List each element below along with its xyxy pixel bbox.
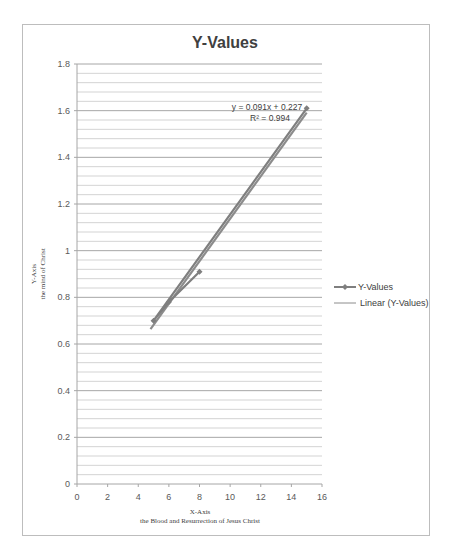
series-line <box>154 108 307 320</box>
y-tick-label: 1.2 <box>57 199 70 209</box>
x-tick-label: 2 <box>105 492 110 502</box>
equation-label: y = 0.091x + 0.227 <box>232 102 303 112</box>
x-tick-label: 12 <box>256 492 266 502</box>
y-tick-label: 0.8 <box>57 292 70 302</box>
x-axis-subtitle: the Blood and Resurrection of Jesus Chri… <box>140 517 260 525</box>
y-axis-title: Y-Axis <box>30 264 38 284</box>
r-squared-label: R² = 0.994 <box>250 113 290 123</box>
x-tick-label: 16 <box>317 492 327 502</box>
x-tick-label: 10 <box>225 492 235 502</box>
data-series <box>151 105 310 323</box>
x-axis-title: X-Axis <box>190 508 211 516</box>
y-tick-label: 1.4 <box>57 152 70 162</box>
tick-labels: 024681012141600.20.40.60.811.21.41.61.8 <box>57 59 327 502</box>
x-tick-label: 0 <box>74 492 79 502</box>
plot-area: 024681012141600.20.40.60.811.21.41.61.8 … <box>0 0 450 557</box>
x-tick-label: 8 <box>197 492 202 502</box>
legend-diamond-marker-icon <box>342 284 348 290</box>
x-tick-label: 4 <box>136 492 141 502</box>
y-tick-label: 0.4 <box>57 386 70 396</box>
x-tick-label: 6 <box>166 492 171 502</box>
y-tick-label: 0.6 <box>57 339 70 349</box>
x-tick-label: 14 <box>286 492 296 502</box>
y-tick-label: 0 <box>65 479 70 489</box>
y-tick-label: 1.8 <box>57 59 70 69</box>
y-tick-label: 1.6 <box>57 106 70 116</box>
legend: Y-Values Linear (Y-Values) <box>334 282 429 308</box>
legend-trendline-label: Linear (Y-Values) <box>360 298 429 308</box>
y-tick-label: 0.2 <box>57 432 70 442</box>
legend-series-label: Y-Values <box>358 282 394 292</box>
axes <box>74 64 322 487</box>
y-axis-subtitle: the mind of Christ <box>39 248 47 299</box>
y-tick-label: 1 <box>65 246 70 256</box>
